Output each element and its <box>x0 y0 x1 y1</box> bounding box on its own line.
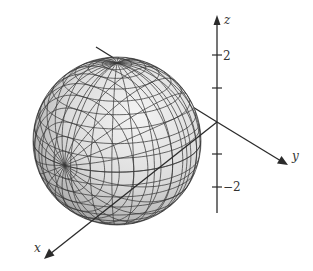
x-axis-label: x <box>34 241 41 255</box>
x-axis-arrow-icon <box>44 249 55 260</box>
y-axis-arrow-icon <box>277 156 288 165</box>
z-axis-arrow-icon <box>214 15 221 25</box>
y-axis-label: y <box>291 149 299 163</box>
z-tick-label-2: 2 <box>223 49 231 63</box>
z-axis-label: z <box>223 13 231 27</box>
sphere-3d-figure: z 2 −2 y x <box>0 0 313 271</box>
z-tick-label-minus-2: −2 <box>223 180 241 194</box>
y-axis-front <box>217 122 281 161</box>
